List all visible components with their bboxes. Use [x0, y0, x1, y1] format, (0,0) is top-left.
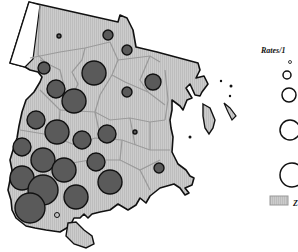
legend-circle-3	[282, 88, 296, 102]
rate-symbol	[98, 170, 122, 194]
east-peninsula	[203, 104, 215, 134]
legend-circle-1	[289, 61, 292, 64]
legend-zip-label: Z	[293, 199, 298, 208]
legend-circle-2	[283, 71, 291, 79]
rate-symbol	[98, 125, 116, 143]
rate-symbol	[122, 45, 132, 55]
rate-symbol	[47, 80, 65, 98]
legend-circles	[280, 61, 298, 188]
small-islet	[230, 85, 233, 88]
small-islet	[229, 95, 231, 97]
rate-symbol	[87, 153, 105, 171]
rate-symbol	[13, 138, 31, 156]
south-island	[66, 222, 94, 248]
legend-zip-swatch	[270, 196, 288, 205]
rate-symbol	[133, 130, 137, 134]
rate-symbol	[38, 62, 50, 74]
rate-symbol	[82, 61, 106, 85]
rate-symbol	[145, 74, 161, 90]
rate-symbol	[154, 163, 164, 173]
map-canvas	[0, 0, 298, 252]
rate-symbol	[62, 89, 86, 113]
legend-circle-5	[280, 163, 298, 187]
small-islet	[55, 213, 60, 218]
rate-symbol	[31, 148, 55, 172]
small-islet	[189, 136, 192, 139]
legend-title: Rates/1	[261, 46, 285, 55]
legend-circle-4	[280, 120, 298, 140]
rate-symbol	[57, 34, 61, 38]
rate-symbol	[15, 193, 45, 223]
small-islet	[220, 80, 222, 82]
rate-symbol	[45, 120, 69, 144]
rate-symbol	[122, 87, 132, 97]
rate-symbol	[27, 111, 45, 129]
rate-symbol	[52, 158, 76, 182]
rate-symbol	[73, 131, 91, 149]
rate-symbol	[103, 30, 113, 40]
east-islet	[224, 103, 236, 120]
rate-symbol	[64, 185, 88, 209]
